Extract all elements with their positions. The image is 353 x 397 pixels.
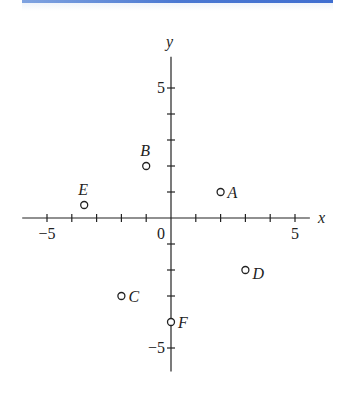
x-axis-label: x xyxy=(317,209,325,226)
x-tick-label: −5 xyxy=(38,225,55,242)
y-axis-label: y xyxy=(164,33,174,51)
point-a xyxy=(217,189,224,196)
point-label-b: B xyxy=(140,142,150,159)
point-label-e: E xyxy=(77,181,88,198)
axes-group xyxy=(22,57,310,372)
coordinate-plane: −5055−5 ABCDEF x y xyxy=(0,0,353,397)
point-label-d: D xyxy=(251,265,264,282)
y-tick-label: 5 xyxy=(157,79,165,96)
point-f xyxy=(168,319,175,326)
point-b xyxy=(143,163,150,170)
y-tick-label: −5 xyxy=(148,339,165,356)
point-d xyxy=(242,267,249,274)
x-tick-label: 0 xyxy=(157,225,165,242)
point-label-f: F xyxy=(177,314,188,331)
x-tick-label: 5 xyxy=(291,225,299,242)
point-label-c: C xyxy=(128,288,139,305)
point-e xyxy=(81,202,88,209)
point-label-a: A xyxy=(227,184,238,201)
point-c xyxy=(118,293,125,300)
